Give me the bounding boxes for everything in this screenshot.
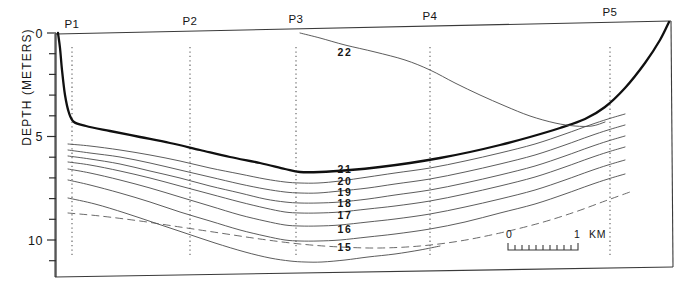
depth-tick-label-5: 5 — [36, 130, 43, 144]
depth-tick-label-0: 0 — [36, 27, 43, 41]
contour-label-21: 21 — [338, 163, 353, 175]
contour-label-22: 22 — [338, 46, 353, 58]
scale-bar-group: 01KM — [506, 228, 606, 250]
station-label-P1: P1 — [64, 18, 79, 30]
contour-label-17: 17 — [338, 209, 353, 221]
depth-axis-label-wrap: DEPTH (METERS) — [17, 0, 35, 177]
contour-labels-group: 2221201918171615 — [338, 46, 353, 253]
oceanographic-cross-section-figure: 2221201918171615 P1P2P3P4P5 0510 01KM DE… — [0, 0, 686, 299]
scale-bar-start-label: 0 — [506, 228, 512, 240]
station-label-P5: P5 — [602, 6, 617, 18]
scale-bar-unit-label: KM — [589, 228, 606, 240]
station-label-P3: P3 — [288, 13, 303, 25]
contour-label-15: 15 — [338, 241, 353, 253]
contour-curve-seabed — [58, 22, 669, 172]
plot-frame — [55, 21, 673, 277]
cross-section-plot: 2221201918171615 P1P2P3P4P5 0510 01KM — [0, 0, 686, 299]
depth-axis-label: DEPTH (METERS) — [20, 28, 34, 145]
station-label-P4: P4 — [422, 10, 437, 22]
contour-curves-group — [58, 22, 669, 262]
station-labels-group: P1P2P3P4P5 — [64, 6, 617, 29]
station-label-P2: P2 — [182, 15, 197, 27]
contour-label-16: 16 — [338, 223, 353, 235]
contour-label-18: 18 — [338, 197, 353, 209]
scale-bar-end-label: 1 — [574, 228, 580, 240]
depth-tick-label-10: 10 — [28, 234, 43, 248]
